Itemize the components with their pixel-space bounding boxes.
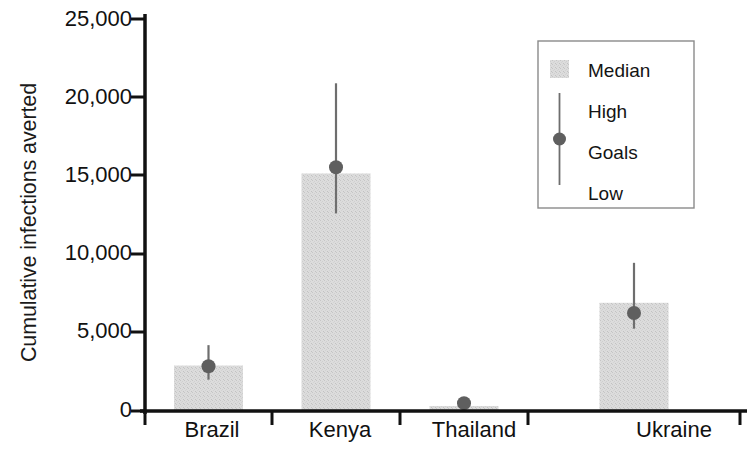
goals-marker-thailand	[457, 396, 471, 410]
x-axis-ticks	[145, 411, 740, 425]
y-axis-ticks	[131, 19, 145, 411]
goals-marker-brazil	[202, 359, 216, 373]
legend: Median High Goals Low	[538, 41, 694, 208]
legend-swatch-median	[550, 60, 569, 78]
bars-group	[174, 173, 669, 411]
legend-label-goals: Goals	[588, 142, 638, 163]
goals-marker-ukraine	[627, 306, 641, 320]
bar-chart: Cumulative infections averted 25,000 20,…	[0, 0, 747, 453]
legend-marker-goals	[553, 133, 566, 146]
legend-label-median: Median	[588, 60, 650, 81]
legend-label-low: Low	[588, 183, 623, 204]
legend-label-high: High	[588, 101, 627, 122]
plot-area: Median High Goals Low	[0, 0, 747, 453]
goals-marker-kenya	[329, 160, 343, 174]
